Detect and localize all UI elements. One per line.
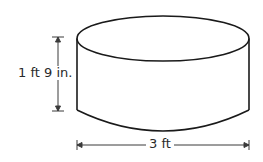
diameter-label: 3 ft (146, 137, 174, 151)
height-label: 1 ft 9 in. (17, 66, 73, 80)
cylinder-diagram (0, 0, 263, 162)
cylinder (77, 16, 249, 131)
cylinder-top-ellipse (77, 16, 249, 61)
cylinder-bottom-curve (77, 110, 249, 131)
